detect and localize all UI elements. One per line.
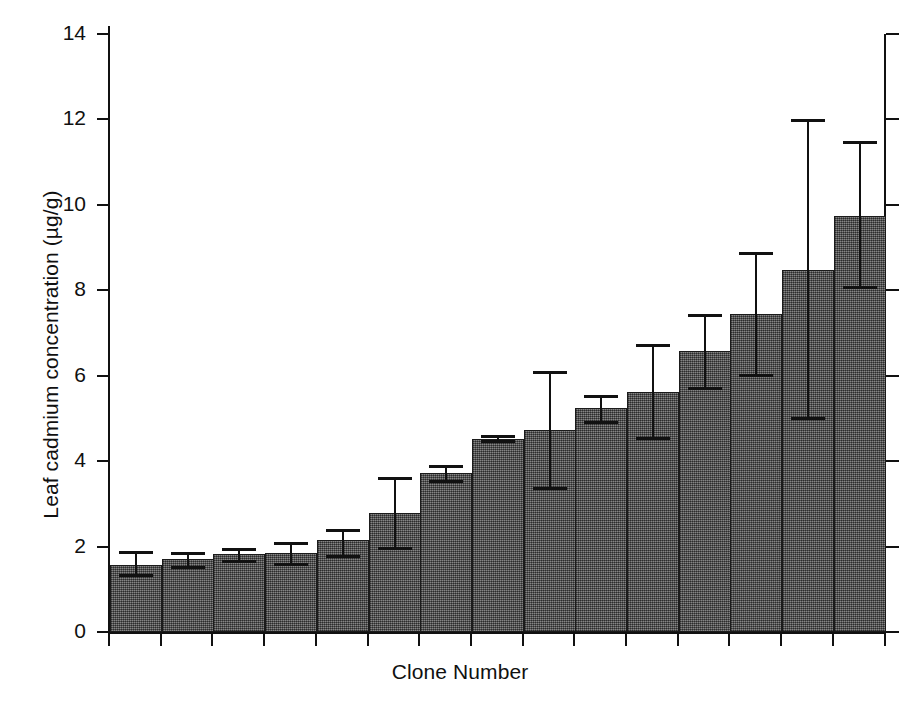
bar — [679, 351, 731, 632]
error-bar-cap-upper — [688, 314, 722, 317]
right-tick — [886, 289, 899, 291]
y-tick — [97, 289, 108, 291]
y-tick-label: 4 — [40, 448, 86, 472]
error-bar-cap-upper — [739, 252, 773, 255]
error-bar-cap-upper — [326, 529, 360, 532]
error-bar-cap-upper — [378, 477, 412, 480]
y-tick-label: 6 — [40, 363, 86, 387]
x-tick — [832, 633, 834, 646]
y-tick-label: 14 — [40, 21, 86, 45]
y-tick — [97, 460, 108, 462]
y-tick — [97, 631, 108, 633]
error-bar-cap-upper — [119, 551, 153, 554]
error-bar-cap-upper — [533, 371, 567, 374]
x-tick — [884, 633, 886, 646]
error-bar-cap-lower — [688, 387, 722, 390]
right-tick — [886, 546, 899, 548]
error-bar-stem — [394, 477, 396, 548]
y-tick-label: 0 — [40, 619, 86, 643]
error-bar-stem — [704, 314, 706, 389]
error-bar-stem — [859, 141, 861, 288]
x-tick — [160, 633, 162, 646]
right-tick — [886, 460, 899, 462]
error-bar-cap-lower — [429, 480, 463, 483]
error-bar-cap-upper — [584, 395, 618, 398]
x-tick — [573, 633, 575, 646]
x-tick — [418, 633, 420, 646]
x-tick — [677, 633, 679, 646]
error-bar-cap-upper — [274, 542, 308, 545]
error-bar-cap-lower — [843, 286, 877, 289]
y-tick — [97, 375, 108, 377]
right-tick — [886, 375, 899, 377]
x-tick — [315, 633, 317, 646]
error-bar-stem — [290, 542, 292, 564]
error-bar-cap-lower — [584, 421, 618, 424]
error-bar-cap-upper — [791, 119, 825, 122]
error-bar-stem — [755, 252, 757, 376]
x-tick — [108, 633, 110, 646]
error-bar-cap-upper — [481, 435, 515, 438]
y-tick — [97, 204, 108, 206]
bar — [472, 439, 524, 632]
bar — [162, 559, 214, 632]
right-tick — [886, 204, 899, 206]
error-bar-cap-lower — [739, 374, 773, 377]
y-tick-label: 2 — [40, 534, 86, 558]
error-bar-cap-lower — [636, 437, 670, 440]
right-tick — [886, 631, 899, 633]
y-tick-label: 8 — [40, 277, 86, 301]
error-bar-stem — [549, 371, 551, 489]
error-bar-stem — [652, 344, 654, 439]
error-bar-cap-lower — [791, 417, 825, 420]
y-tick — [97, 546, 108, 548]
x-tick — [728, 633, 730, 646]
error-bar-cap-lower — [378, 547, 412, 550]
chart-figure: Leaf cadmium concentration (µg/g) Clone … — [0, 0, 920, 709]
error-bar-stem — [342, 529, 344, 558]
bar — [420, 473, 472, 632]
error-bar-cap-lower — [326, 555, 360, 558]
x-tick — [625, 633, 627, 646]
error-bar-cap-lower — [533, 487, 567, 490]
bar — [213, 554, 265, 632]
x-tick — [211, 633, 213, 646]
y-tick — [97, 33, 108, 35]
error-bar-cap-upper — [636, 344, 670, 347]
error-bar-cap-lower — [481, 440, 515, 443]
x-tick — [263, 633, 265, 646]
error-bar-cap-lower — [274, 563, 308, 566]
plot-area: 02468101214 — [0, 0, 920, 709]
y-tick-label: 10 — [40, 192, 86, 216]
y-tick — [97, 118, 108, 120]
error-bar-cap-lower — [222, 560, 256, 563]
right-tick — [886, 118, 899, 120]
error-bar-cap-lower — [119, 574, 153, 577]
x-tick — [367, 633, 369, 646]
error-bar-stem — [600, 395, 602, 423]
error-bar-cap-upper — [429, 465, 463, 468]
error-bar-cap-upper — [843, 141, 877, 144]
right-tick — [886, 33, 899, 35]
x-tick — [470, 633, 472, 646]
x-tick — [522, 633, 524, 646]
bar — [575, 408, 627, 632]
y-tick-label: 12 — [40, 106, 86, 130]
error-bar-cap-upper — [222, 548, 256, 551]
x-axis-line — [108, 632, 886, 634]
y-axis-line — [108, 26, 110, 634]
error-bar-cap-upper — [171, 552, 205, 555]
x-tick — [780, 633, 782, 646]
error-bar-stem — [807, 119, 809, 419]
error-bar-cap-lower — [171, 566, 205, 569]
error-bar-stem — [135, 551, 137, 577]
